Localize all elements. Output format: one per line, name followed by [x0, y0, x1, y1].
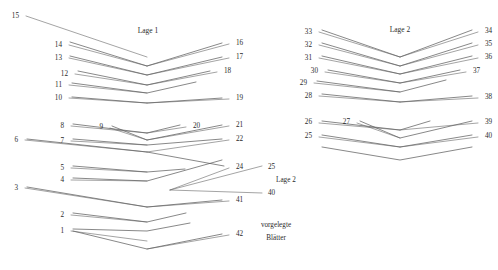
callout-21: 21 [236, 121, 244, 129]
leader-line-35 [400, 45, 478, 66]
lage1-leader-lines [25, 16, 229, 249]
leader-line-31 [319, 58, 400, 74]
callout-16: 16 [236, 39, 244, 47]
callout-26: 26 [305, 118, 313, 126]
callout-1: 1 [60, 227, 64, 235]
callout-38: 38 [485, 93, 493, 101]
callout-8: 8 [60, 122, 64, 130]
callout-40: 40 [485, 132, 493, 140]
callout-4: 4 [60, 176, 64, 184]
leader-line-33 [319, 32, 400, 57]
callout-27: 27 [343, 118, 351, 126]
leader-line-8 [71, 126, 147, 133]
leader-line-32 [319, 45, 400, 66]
callout-29: 29 [300, 79, 308, 87]
lage2-layer-9 [322, 147, 472, 160]
callout-18: 18 [224, 67, 232, 75]
leader-line-36 [400, 58, 478, 74]
callout-9: 9 [99, 123, 103, 131]
leader-line-11 [69, 85, 147, 93]
callout-14: 14 [55, 41, 63, 49]
lage1-layer-6 [112, 125, 222, 140]
callout-25-inset: 25 [268, 163, 276, 171]
callout-40-inset: 40 [268, 189, 276, 197]
leader-line-15 [26, 16, 147, 57]
leader-line-20 [147, 127, 186, 133]
lage1-layer-10 [73, 160, 222, 181]
leader-line-21 [147, 126, 229, 140]
leader-line-28 [319, 96, 400, 102]
callout-34: 34 [485, 27, 493, 35]
callout-20: 20 [193, 122, 201, 130]
callout-22: 22 [236, 135, 244, 143]
callout-39: 39 [485, 118, 493, 126]
lage1-layer-13 [73, 223, 190, 231]
leader-line-29 [314, 83, 400, 92]
leader-line-14 [69, 45, 147, 66]
leader-line-12 [75, 74, 147, 85]
callout-12: 12 [61, 70, 69, 78]
inset-leader-lines [170, 166, 262, 193]
callout-11: 11 [55, 81, 62, 89]
leader-line-24 [170, 168, 229, 190]
lage1-layer-4 [72, 97, 222, 103]
leader-line-16 [147, 44, 229, 66]
lage2-layer-1 [322, 43, 472, 66]
callout-30: 30 [311, 67, 319, 75]
leader-line-30 [325, 72, 400, 83]
technical-diagram: 1514131211108967543211617181920212224414… [0, 0, 498, 270]
leader-line-27 [357, 123, 400, 138]
leader-line-42 [147, 235, 229, 249]
callout-25: 25 [305, 132, 313, 140]
figure-canvas: 1514131211108967543211617181920212224414… [0, 0, 498, 270]
lage2-layer-7 [360, 121, 472, 138]
leader-line-19 [147, 99, 229, 103]
callout-7: 7 [60, 137, 64, 145]
leader-line-3 [25, 188, 147, 207]
inset-leader-1 [170, 190, 262, 193]
leader-line-2 [71, 215, 147, 222]
callout-37: 37 [473, 67, 481, 75]
callout-10: 10 [55, 94, 63, 102]
callout-42: 42 [236, 230, 244, 238]
callout-41: 41 [236, 196, 244, 204]
leader-line-9 [110, 128, 147, 140]
leader-line-10 [69, 98, 147, 103]
lage1-layer-11 [27, 187, 222, 207]
callout-5: 5 [60, 164, 64, 172]
callout-32: 32 [305, 41, 313, 49]
callout-15: 15 [12, 12, 20, 20]
callout-33: 33 [305, 28, 313, 36]
leader-line-18 [147, 72, 217, 85]
leader-line-17 [147, 58, 229, 75]
callout-35: 35 [485, 40, 493, 48]
inset-leader-0 [170, 166, 262, 190]
leader-line-25 [319, 137, 400, 147]
lage2-title: Lage 2 [390, 25, 411, 34]
inset-lage2-label: Lage 2 [276, 176, 296, 184]
lage1-layer-lines [27, 42, 224, 249]
callout-28: 28 [305, 92, 313, 100]
callout-2: 2 [60, 211, 64, 219]
leader-line-37 [400, 72, 466, 83]
callout-36: 36 [485, 53, 493, 61]
callout-19: 19 [236, 94, 244, 102]
callout-3: 3 [14, 184, 18, 192]
callout-31: 31 [305, 54, 313, 62]
lage1-layer-2 [78, 71, 210, 85]
callout-17: 17 [236, 53, 244, 61]
leader-line-13 [69, 58, 147, 75]
callout-24: 24 [236, 163, 244, 171]
leader-line-41 [147, 201, 229, 207]
callout-13: 13 [55, 54, 63, 62]
lage1-title: Lage 1 [138, 26, 159, 35]
callout-6: 6 [14, 136, 18, 144]
leader-line-40 [400, 137, 478, 147]
vorgelegte-note-line1: vorgelegte [261, 221, 291, 229]
vorgelegte-note-line2: Blätter [266, 234, 286, 242]
